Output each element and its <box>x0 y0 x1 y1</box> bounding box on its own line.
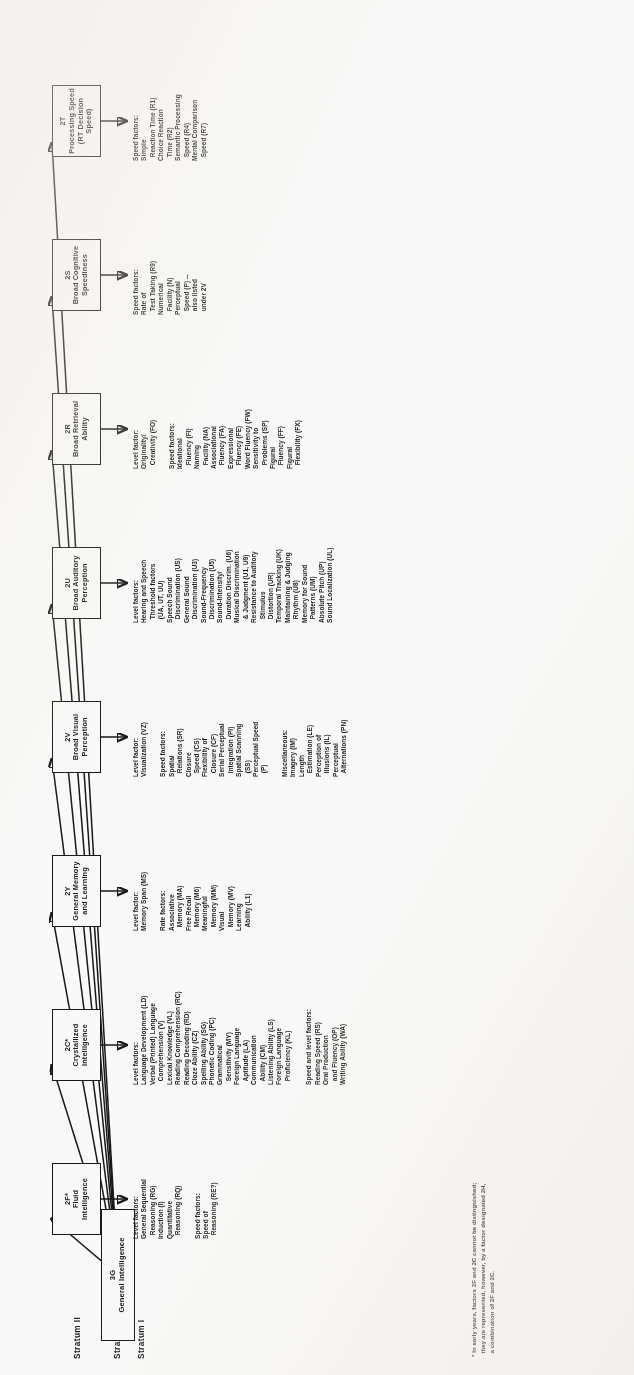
node-name: Broad Retrieval Ability <box>71 401 89 457</box>
node-2f[interactable]: 2F*Fluid Intelligence <box>52 1163 101 1235</box>
node-name: Crystallized Intelligence <box>71 1024 89 1067</box>
factor-group: Speed factors: Simple Reaction Time (R1)… <box>132 13 208 161</box>
node-2u[interactable]: 2UBroad Auditory Perception <box>52 547 101 619</box>
factor-group: Level factors: Language Development (LD)… <box>132 937 292 1085</box>
factor-group: Level factor: Memory Span (MS) <box>132 783 149 931</box>
node-general-intelligence[interactable]: 3G General Intelligence <box>101 1209 135 1341</box>
node-2v[interactable]: 2VBroad Visual Perception <box>52 701 101 773</box>
factor-group: Level factor: Originality/ Creativity (F… <box>132 321 157 469</box>
node-2s[interactable]: 2SBroad Cognitive Speediness <box>52 239 101 311</box>
factor-group: Level factors: Hearing and Speech Thresh… <box>132 475 335 623</box>
node-2y[interactable]: 2YGeneral Memory and Learning <box>52 855 101 927</box>
factor-group: Level factors: General Sequential Reason… <box>132 1091 183 1239</box>
factor-group: Level factor: Visualization (VZ) <box>132 629 149 777</box>
node-name: Broad Visual Perception <box>71 714 89 760</box>
figure-footnote: * In early years, factors 2F and 2C cann… <box>470 1183 496 1357</box>
factor-group: Speed factors: Ideational Fluency (FI) N… <box>168 321 303 469</box>
node-name: Broad Cognitive Speediness <box>71 246 89 305</box>
stratum-label-i: Stratum I <box>136 1319 146 1359</box>
diagram-canvas: Stratum III Stratum II Stratum I 3G Gene… <box>0 0 634 1375</box>
node-2t[interactable]: 2TProcessing Speed (RT Decision Speed) <box>52 85 101 157</box>
factor-group: Speed factors: Speed of Reasoning (RE?) <box>194 1091 219 1239</box>
node-name: Broad Auditory Perception <box>71 556 89 611</box>
factor-group: Rate factors: Associative Memory (MA) Fr… <box>159 783 252 931</box>
node-name: General Memory and Learning <box>71 861 89 920</box>
node-name-3g: General Intelligence <box>117 1237 126 1312</box>
node-2c[interactable]: 2C*Crystallized Intelligence <box>52 1009 101 1081</box>
node-2r[interactable]: 2RBroad Retrieval Ability <box>52 393 101 465</box>
node-name: Fluid Intelligence <box>71 1178 89 1220</box>
node-name: Processing Speed (RT Decision Speed) <box>67 88 93 154</box>
rotated-diagram-canvas: Stratum III Stratum II Stratum I 3G Gene… <box>0 0 634 1375</box>
factor-group: Miscellaneous: Imagery (IM) Length Estim… <box>281 629 349 777</box>
factor-group: Speed factors: Spatial Relations (SR) Cl… <box>159 629 269 777</box>
stratum-label-ii: Stratum II <box>72 1317 82 1359</box>
factor-group: Speed and level factors: Reading Speed (… <box>305 937 347 1085</box>
factor-group: Speed factors: Rate of Test Taking (R9) … <box>132 167 208 315</box>
